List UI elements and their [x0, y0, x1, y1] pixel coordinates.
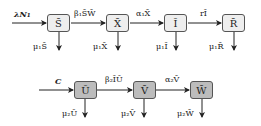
- outflow-label-u: μ₂Ū: [62, 110, 77, 118]
- transition-label-x-i: α₁X̄: [136, 10, 150, 18]
- outflow-label-s: μ₁S̄: [33, 43, 47, 51]
- outflow-label-r: μ₁R̄: [209, 43, 223, 51]
- transition-label-u-v: β₂ĪŪ: [105, 76, 123, 84]
- transition-label-s-x: β₁S̄W̄: [74, 10, 96, 18]
- outflow-label-i: μ₁Ī: [156, 43, 168, 51]
- compartment-s: S̄: [47, 14, 70, 32]
- compartment-r: R̄: [222, 14, 245, 32]
- compartment-u: Ū: [74, 81, 97, 99]
- outflow-label-w: μ₂W̄: [177, 110, 194, 118]
- transition-label-v-w: α₂V̄: [165, 76, 179, 84]
- transition-label-i-r: rĪ: [200, 10, 207, 18]
- outflow-label-x: μ₁X̄: [93, 43, 107, 51]
- outflow-label-v: μ₂V̄: [121, 110, 135, 118]
- compartment-x: X̄: [106, 14, 129, 32]
- input-label-top: λN₁: [14, 10, 30, 18]
- compartment-v: V̄: [133, 81, 156, 99]
- compartment-i: Ī: [164, 14, 187, 32]
- compartment-w: W̄: [190, 81, 213, 99]
- input-label-bottom: C: [55, 77, 61, 85]
